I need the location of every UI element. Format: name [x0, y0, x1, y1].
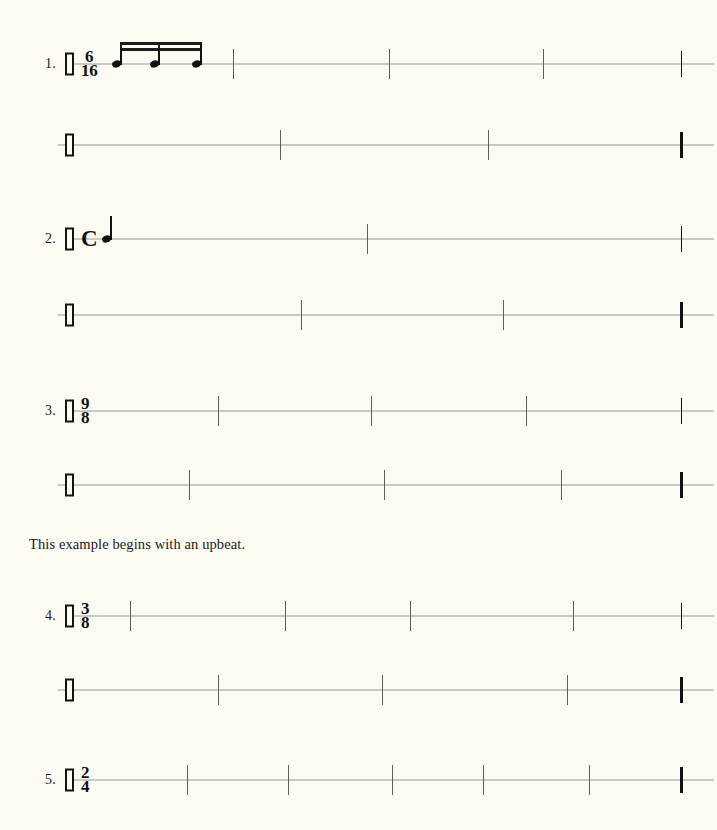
beam-primary	[120, 42, 202, 45]
final-barline	[680, 302, 683, 328]
barline	[187, 765, 188, 795]
rhythm-clef-icon	[65, 605, 74, 628]
staff-line	[68, 780, 714, 781]
exercise-3-system-2	[30, 457, 690, 513]
barline	[285, 601, 286, 631]
barline	[561, 470, 562, 500]
barline	[367, 224, 368, 254]
notehead-sixteenth	[149, 59, 160, 69]
barline	[410, 601, 411, 631]
barline	[384, 470, 385, 500]
barline	[189, 470, 190, 500]
time-signature: 9 8	[81, 397, 89, 426]
notehead-sixteenth	[191, 59, 202, 69]
rhythm-clef-icon	[65, 134, 74, 157]
instruction-text: This example begins with an upbeat.	[29, 536, 245, 553]
staff-line	[68, 616, 714, 617]
notehead-sixteenth	[111, 59, 122, 69]
exercise-2-system-2	[30, 287, 690, 343]
rhythm-clef-icon	[65, 679, 74, 702]
barline	[218, 396, 219, 426]
time-signature: 6 16	[81, 50, 97, 79]
staff-line	[58, 315, 714, 316]
final-barline	[680, 472, 683, 498]
time-signature: 3 8	[81, 602, 89, 631]
staff-line	[58, 145, 714, 146]
exercise-4-system-2	[30, 662, 690, 718]
barline	[567, 675, 568, 705]
exercise-5-system-1: 5. 2 4	[30, 752, 690, 808]
barline	[218, 675, 219, 705]
exercise-1-system-2	[30, 117, 690, 173]
time-signature-denominator: 16	[81, 64, 97, 78]
end-barline	[681, 603, 682, 629]
exercise-number: 5.	[30, 772, 56, 788]
staff-line	[68, 64, 714, 65]
barline	[382, 675, 383, 705]
final-barline	[680, 132, 683, 158]
exercise-3-system-1: 3. 9 8	[30, 383, 690, 439]
upbeat-barline	[130, 601, 131, 631]
staff-line	[68, 411, 714, 412]
barline	[233, 49, 234, 79]
staff-line	[58, 485, 714, 486]
rhythm-clef-icon	[65, 228, 74, 251]
staff-line	[68, 239, 714, 240]
barline	[288, 765, 289, 795]
time-signature-denominator: 4	[81, 780, 89, 794]
barline	[543, 49, 544, 79]
notehead-quarter	[101, 234, 112, 244]
final-barline	[680, 677, 683, 703]
common-time-symbol: C	[81, 226, 98, 252]
worksheet-page: 1. 6 16 2. C	[0, 0, 717, 830]
exercise-number: 3.	[30, 403, 56, 419]
staff-line	[58, 690, 714, 691]
barline	[589, 765, 590, 795]
time-signature-denominator: 8	[81, 616, 89, 630]
rhythm-clef-icon	[65, 400, 74, 423]
rhythm-clef-icon	[65, 769, 74, 792]
end-barline	[681, 226, 682, 252]
exercise-1-system-1: 1. 6 16	[30, 36, 690, 92]
final-barline	[680, 767, 683, 793]
barline	[526, 396, 527, 426]
barline	[483, 765, 484, 795]
barline	[389, 49, 390, 79]
barline	[503, 300, 504, 330]
barline	[301, 300, 302, 330]
barline	[392, 765, 393, 795]
rhythm-clef-icon	[65, 304, 74, 327]
exercise-4-system-1: 4. 3 8	[30, 588, 690, 644]
barline	[371, 396, 372, 426]
time-signature-denominator: 8	[81, 411, 89, 425]
end-barline	[681, 51, 682, 77]
exercise-2-system-1: 2. C	[30, 211, 690, 267]
beam-secondary	[120, 48, 202, 51]
time-signature: 2 4	[81, 766, 89, 795]
end-barline	[681, 398, 682, 424]
rhythm-clef-icon	[65, 53, 74, 76]
exercise-number: 1.	[30, 56, 56, 72]
barline	[573, 601, 574, 631]
exercise-number: 4.	[30, 608, 56, 624]
barline	[488, 130, 489, 160]
rhythm-clef-icon	[65, 474, 74, 497]
exercise-number: 2.	[30, 231, 56, 247]
barline	[280, 130, 281, 160]
